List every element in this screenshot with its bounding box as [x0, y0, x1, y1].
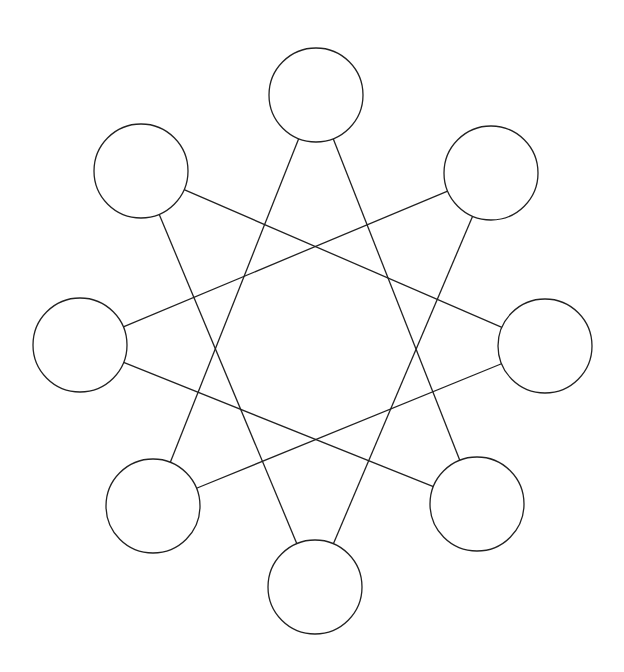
- node-upper-left: [94, 124, 188, 218]
- node-top: [269, 48, 363, 142]
- node-left: [33, 298, 127, 392]
- edge-top-to-lower-right: [333, 139, 460, 461]
- node-bottom: [268, 540, 362, 634]
- nodes-group: [33, 48, 592, 634]
- node-lower-left: [106, 459, 200, 553]
- node-lower-right: [430, 457, 524, 551]
- node-right: [498, 299, 592, 393]
- node-upper-right: [444, 126, 538, 220]
- star-graph-diagram: [0, 0, 624, 672]
- edge-top-to-lower-left: [170, 139, 298, 463]
